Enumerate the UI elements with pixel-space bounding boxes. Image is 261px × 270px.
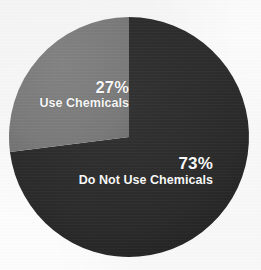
pie-chart-svg bbox=[0, 0, 261, 270]
slice-category-do-not-use-chemicals: Do Not Use Chemicals bbox=[60, 174, 213, 187]
chart-area: 27% Use Chemicals 73% Do Not Use Chemica… bbox=[0, 0, 261, 270]
slice-category-use-chemicals: Use Chemicals bbox=[10, 97, 129, 110]
slice-value-do-not-use-chemicals: 73% bbox=[60, 155, 213, 173]
pie-chart-figure: 27% Use Chemicals 73% Do Not Use Chemica… bbox=[0, 0, 261, 270]
slice-label-use-chemicals: 27% Use Chemicals bbox=[10, 79, 129, 110]
slice-value-use-chemicals: 27% bbox=[10, 79, 129, 96]
slice-label-do-not-use-chemicals: 73% Do Not Use Chemicals bbox=[60, 155, 213, 187]
